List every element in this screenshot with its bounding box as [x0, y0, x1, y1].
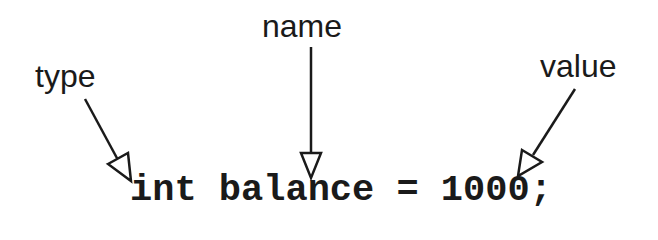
- name-arrow-icon: [301, 47, 321, 178]
- value-arrow-icon: [518, 89, 575, 176]
- code-statement: int balance = 1000;: [130, 172, 552, 209]
- type-arrow-icon: [85, 99, 131, 181]
